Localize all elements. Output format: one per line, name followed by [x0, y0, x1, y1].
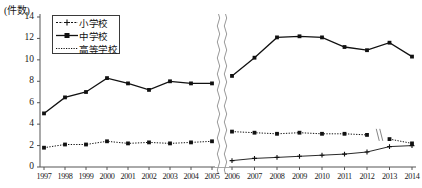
series-line-juniorhigh — [232, 36, 412, 76]
data-point-highschool — [298, 131, 302, 135]
y-tick-label: 0 — [14, 161, 34, 171]
data-point-juniorhigh — [105, 76, 109, 80]
legend-swatch-highschool — [55, 43, 79, 54]
legend-label-juniorhigh: 中学校 — [79, 29, 108, 43]
data-point-juniorhigh — [275, 36, 279, 40]
data-point-juniorhigh — [126, 82, 130, 86]
legend-swatch-juniorhigh — [55, 30, 79, 41]
data-point-highschool — [253, 131, 257, 135]
chart-legend: 小学校 中学校 高等学校 — [52, 15, 120, 54]
data-point-highschool — [230, 130, 234, 134]
data-point-elementary — [320, 153, 325, 158]
data-point-juniorhigh — [63, 96, 67, 100]
y-tick-label: 12 — [14, 32, 34, 42]
series-line-highschool — [390, 139, 413, 143]
data-point-highschool — [365, 133, 369, 137]
data-point-juniorhigh — [230, 74, 234, 78]
data-point-juniorhigh — [189, 82, 193, 86]
data-point-highschool — [320, 132, 324, 136]
data-point-juniorhigh — [253, 56, 257, 60]
data-point-elementary — [297, 154, 302, 159]
y-tick-label: 8 — [14, 75, 34, 85]
data-point-highschool — [168, 142, 172, 146]
data-point-highschool — [105, 139, 109, 143]
data-point-juniorhigh — [365, 48, 369, 52]
data-point-juniorhigh — [84, 90, 88, 94]
data-point-elementary — [387, 144, 392, 149]
data-point-highschool — [63, 143, 67, 147]
x-tick-label: 2014 — [397, 172, 422, 181]
data-point-elementary — [252, 156, 257, 161]
data-point-elementary — [275, 155, 280, 160]
data-point-highschool — [147, 141, 151, 145]
legend-item-highschool: 高等学校 — [53, 42, 119, 55]
legend-item-juniorhigh: 中学校 — [53, 29, 119, 42]
data-point-juniorhigh — [298, 34, 302, 38]
y-tick-label: 2 — [14, 140, 34, 150]
y-tick-label: 6 — [14, 97, 34, 107]
data-point-highschool — [42, 146, 46, 150]
data-point-juniorhigh — [343, 45, 347, 49]
data-point-highschool — [210, 139, 214, 143]
data-point-juniorhigh — [410, 55, 414, 59]
y-tick-label: 14 — [14, 11, 34, 21]
data-point-juniorhigh — [168, 79, 172, 83]
data-point-highschool — [126, 142, 130, 146]
chart-root: (件数) 小学校 中学校 高等学校 0246810121419971998199… — [0, 0, 422, 188]
legend-label-highschool: 高等学校 — [79, 42, 117, 56]
data-point-elementary — [342, 152, 347, 157]
y-tick-label: 4 — [14, 118, 34, 128]
y-tick-label: 10 — [14, 54, 34, 64]
data-point-elementary — [230, 158, 235, 163]
legend-swatch-elementary — [55, 17, 79, 28]
data-point-highschool — [343, 132, 347, 136]
data-point-juniorhigh — [388, 41, 392, 45]
data-point-juniorhigh — [320, 36, 324, 40]
data-point-highschool — [388, 137, 392, 141]
data-point-elementary — [365, 150, 370, 155]
data-point-juniorhigh — [147, 88, 151, 92]
data-point-highschool — [84, 143, 88, 147]
data-point-highschool — [275, 132, 279, 136]
data-point-highschool — [189, 141, 193, 145]
legend-label-elementary: 小学校 — [79, 16, 108, 30]
legend-item-elementary: 小学校 — [53, 16, 119, 29]
data-point-juniorhigh — [210, 82, 214, 86]
data-point-juniorhigh — [42, 112, 46, 116]
